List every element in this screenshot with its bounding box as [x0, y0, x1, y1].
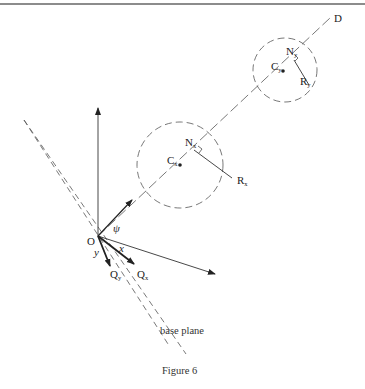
figure-caption: Figure 6 [162, 365, 197, 376]
center-Cy [281, 69, 285, 73]
label-Cx: Cx [167, 154, 178, 167]
label-Ry: Ry [300, 75, 311, 88]
label-D: D [334, 12, 342, 24]
label-Ny: Ny [286, 45, 298, 58]
radius-NxRx [194, 150, 232, 178]
label-Nx: Nx [185, 136, 197, 149]
label-Qy: Qy [110, 268, 122, 281]
base-plane [24, 120, 186, 354]
circle-y [253, 38, 317, 102]
label-y-axis: y [93, 246, 99, 258]
base-plane-label: base plane [160, 325, 204, 336]
label-Qx: Qx [137, 268, 149, 281]
label-psi: ψ [113, 222, 120, 234]
right-angle-x [198, 146, 202, 153]
center-Cx [178, 163, 182, 167]
label-Cy: Cy [271, 60, 282, 73]
label-x-axis: x [118, 242, 124, 254]
label-Rx: Rx [237, 174, 248, 187]
figure-6-diagram: D O ψ x y Qx Qy Cx Nx Rx Cy Ny Ry base p… [0, 0, 365, 389]
